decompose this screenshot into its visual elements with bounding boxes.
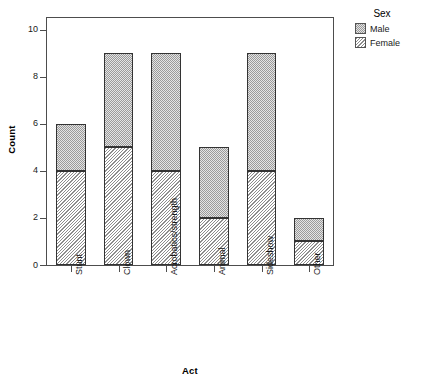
x-tick-label: Stunt [75, 254, 84, 275]
y-tick-mark [40, 265, 46, 266]
y-tick-label: 0 [33, 261, 38, 270]
y-tick-label: 2 [33, 213, 38, 222]
x-tick-mark [119, 266, 120, 272]
y-axis-label: Count [6, 110, 17, 170]
x-tick-label: Animal [218, 247, 227, 275]
x-tick-mark [71, 266, 72, 272]
x-tick-label: Other [313, 252, 322, 275]
x-tick-mark [166, 266, 167, 272]
x-tick-label: Sideshow [266, 236, 275, 275]
bar-group[interactable] [104, 18, 134, 265]
bar-group[interactable] [56, 18, 86, 265]
legend-item[interactable]: Female [355, 37, 429, 48]
x-tick-label: Acrobatics/strength [170, 198, 179, 275]
x-tick-label: Clown [123, 250, 132, 275]
bar-segment-male[interactable] [247, 53, 277, 171]
bar-segment-female[interactable] [56, 171, 86, 265]
bar-group[interactable] [294, 18, 324, 265]
y-tick-mark [40, 124, 46, 125]
y-tick-mark [40, 171, 46, 172]
bar-segment-male[interactable] [151, 53, 181, 171]
legend-title: Sex [349, 8, 415, 20]
bar-segment-male[interactable] [104, 53, 134, 147]
bar-group[interactable] [247, 18, 277, 265]
y-tick-mark [40, 218, 46, 219]
legend: Sex MaleFemale [349, 8, 429, 48]
x-axis-label: Act [0, 365, 380, 376]
legend-swatch [355, 37, 366, 48]
y-tick-label: 10 [28, 25, 38, 34]
x-tick-mark [309, 266, 310, 272]
legend-item[interactable]: Male [355, 23, 429, 34]
x-tick-mark [262, 266, 263, 272]
bar-segment-male[interactable] [294, 218, 324, 242]
bar-segment-male[interactable] [199, 147, 229, 218]
y-tick-label: 4 [33, 166, 38, 175]
y-tick-mark [40, 30, 46, 31]
bar-segment-female[interactable] [104, 147, 134, 265]
y-tick-label: 8 [33, 72, 38, 81]
y-tick-mark [40, 77, 46, 78]
bar-segment-male[interactable] [56, 124, 86, 171]
legend-swatch [355, 23, 366, 34]
bar-group[interactable] [199, 18, 229, 265]
legend-label: Female [370, 38, 400, 48]
legend-entries: MaleFemale [349, 23, 429, 48]
chart-figure: Count 0246810 StuntClownAcrobatics/stren… [0, 0, 431, 384]
x-tick-mark [214, 266, 215, 272]
plot-area [47, 18, 333, 265]
y-tick-label: 6 [33, 119, 38, 128]
legend-label: Male [370, 24, 390, 34]
